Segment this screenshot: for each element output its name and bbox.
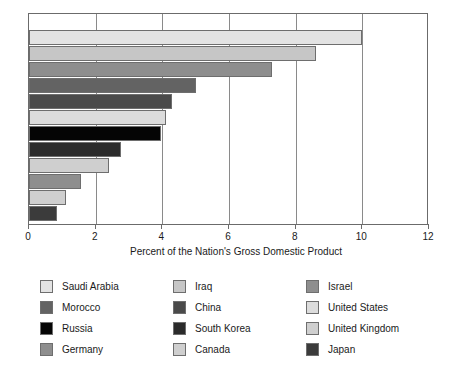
legend-swatch-south-korea bbox=[173, 322, 186, 335]
legend-swatch-saudi-arabia bbox=[40, 280, 53, 293]
x-tick-4 bbox=[161, 224, 162, 229]
legend-item-russia[interactable]: Russia bbox=[40, 320, 173, 336]
legend-item-saudi-arabia[interactable]: Saudi Arabia bbox=[40, 278, 173, 294]
legend-item-japan[interactable]: Japan bbox=[306, 341, 439, 357]
legend-swatch-united-states bbox=[306, 301, 319, 314]
legend-item-iraq[interactable]: Iraq bbox=[173, 278, 306, 294]
bar-canada bbox=[29, 158, 109, 173]
plot-area bbox=[28, 13, 428, 225]
x-tick-label-6: 6 bbox=[208, 231, 248, 242]
legend-item-morocco[interactable]: Morocco bbox=[40, 299, 173, 315]
x-tick-label-10: 10 bbox=[341, 231, 381, 242]
legend-label-russia: Russia bbox=[62, 323, 93, 334]
bar-south-korea bbox=[29, 142, 121, 157]
legend-label-canada: Canada bbox=[195, 344, 230, 355]
x-tick-10 bbox=[361, 224, 362, 229]
legend-label-morocco: Morocco bbox=[62, 302, 100, 313]
x-tick-6 bbox=[228, 224, 229, 229]
x-tick-2 bbox=[95, 224, 96, 229]
x-tick-12 bbox=[428, 224, 429, 229]
x-tick-label-4: 4 bbox=[141, 231, 181, 242]
gdp-bar-chart: 024681012 Percent of the Nation's Gross … bbox=[0, 0, 472, 268]
legend-swatch-russia bbox=[40, 322, 53, 335]
legend-label-israel: Israel bbox=[328, 281, 352, 292]
legend-label-iraq: Iraq bbox=[195, 281, 212, 292]
legend-swatch-morocco bbox=[40, 301, 53, 314]
x-tick-label-8: 8 bbox=[275, 231, 315, 242]
legend-label-united-kingdom: United Kingdom bbox=[328, 323, 399, 334]
legend-swatch-germany bbox=[40, 343, 53, 356]
x-tick-label-2: 2 bbox=[75, 231, 115, 242]
legend-column-2: IraqChinaSouth KoreaCanada bbox=[173, 278, 306, 370]
x-tick-label-12: 12 bbox=[408, 231, 448, 242]
legend-label-south-korea: South Korea bbox=[195, 323, 251, 334]
chart-legend: Saudi ArabiaMoroccoRussiaGermanyIraqChin… bbox=[40, 278, 440, 370]
legend-label-japan: Japan bbox=[328, 344, 355, 355]
legend-column-1: Saudi ArabiaMoroccoRussiaGermany bbox=[40, 278, 173, 370]
x-axis-title: Percent of the Nation's Gross Domestic P… bbox=[0, 246, 472, 257]
bar-germany bbox=[29, 174, 81, 189]
bar-russia bbox=[29, 126, 161, 141]
bars-layer bbox=[29, 14, 427, 224]
legend-swatch-israel bbox=[306, 280, 319, 293]
bar-israel bbox=[29, 62, 272, 77]
legend-swatch-united-kingdom bbox=[306, 322, 319, 335]
bar-china bbox=[29, 94, 172, 109]
legend-item-canada[interactable]: Canada bbox=[173, 341, 306, 357]
legend-swatch-china bbox=[173, 301, 186, 314]
bar-saudi-arabia bbox=[29, 30, 362, 45]
legend-item-united-kingdom[interactable]: United Kingdom bbox=[306, 320, 439, 336]
legend-label-united-states: United States bbox=[328, 302, 388, 313]
legend-item-south-korea[interactable]: South Korea bbox=[173, 320, 306, 336]
legend-item-united-states[interactable]: United States bbox=[306, 299, 439, 315]
legend-item-israel[interactable]: Israel bbox=[306, 278, 439, 294]
legend-item-china[interactable]: China bbox=[173, 299, 306, 315]
bar-united-states bbox=[29, 110, 166, 125]
bar-iraq bbox=[29, 46, 316, 61]
bar-japan bbox=[29, 206, 57, 221]
bar-morocco bbox=[29, 78, 196, 93]
x-tick-label-0: 0 bbox=[8, 231, 48, 242]
legend-label-china: China bbox=[195, 302, 221, 313]
legend-column-3: IsraelUnited StatesUnited KingdomJapan bbox=[306, 278, 439, 370]
legend-label-saudi-arabia: Saudi Arabia bbox=[62, 281, 119, 292]
legend-swatch-iraq bbox=[173, 280, 186, 293]
legend-item-germany[interactable]: Germany bbox=[40, 341, 173, 357]
legend-swatch-canada bbox=[173, 343, 186, 356]
legend-label-germany: Germany bbox=[62, 344, 103, 355]
x-tick-8 bbox=[295, 224, 296, 229]
x-tick-0 bbox=[28, 224, 29, 229]
legend-swatch-japan bbox=[306, 343, 319, 356]
bar-united-kingdom bbox=[29, 190, 66, 205]
